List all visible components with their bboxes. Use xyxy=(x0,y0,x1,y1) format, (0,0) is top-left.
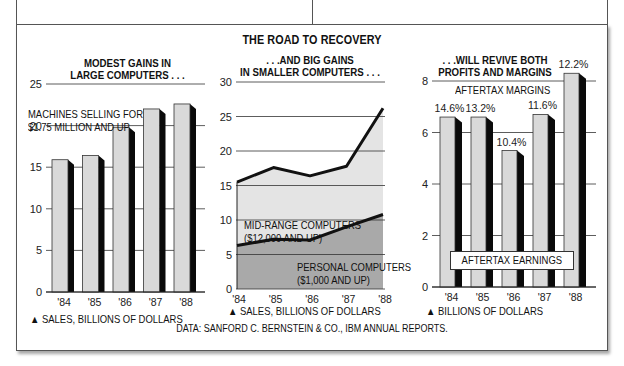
left-series-label-line2: $1.75 MILLION AND UP xyxy=(28,121,143,134)
svg-text:2: 2 xyxy=(422,230,428,242)
svg-text:0: 0 xyxy=(422,281,428,293)
svg-text:'88: '88 xyxy=(378,293,392,305)
bar-shadow xyxy=(99,156,105,292)
bar-shadow xyxy=(160,109,166,292)
source-note: DATA: SANFORD C. BERNSTEIN & CO., IBM AN… xyxy=(31,323,593,334)
svg-text:'87: '87 xyxy=(538,291,552,303)
svg-text:30: 30 xyxy=(220,76,232,88)
svg-text:0: 0 xyxy=(36,286,42,298)
svg-text:6: 6 xyxy=(422,127,428,139)
svg-text:25: 25 xyxy=(220,111,232,123)
svg-text:25: 25 xyxy=(30,78,42,90)
midrange-label-line2: ($12,000 AND UP) xyxy=(244,232,361,245)
middle-axis-note: ▲ SALES, BILLIONS OF DOLLARS xyxy=(228,305,381,317)
svg-text:0: 0 xyxy=(226,283,232,295)
midrange-label-line1: MID-RANGE COMPUTERS xyxy=(244,219,361,232)
svg-text:'86: '86 xyxy=(305,293,319,305)
midrange-label: MID-RANGE COMPUTERS ($12,000 AND UP) xyxy=(244,219,361,245)
bar-shadow xyxy=(68,160,74,292)
bar xyxy=(174,104,190,292)
svg-text:'86: '86 xyxy=(507,291,521,303)
bar xyxy=(113,127,129,292)
bar-shadow xyxy=(190,104,196,292)
svg-text:'84: '84 xyxy=(57,296,71,308)
svg-text:10: 10 xyxy=(30,203,42,215)
svg-text:4: 4 xyxy=(422,178,428,190)
svg-text:10: 10 xyxy=(220,214,232,226)
svg-text:'85: '85 xyxy=(88,296,102,308)
svg-text:'85: '85 xyxy=(476,291,490,303)
svg-text:5: 5 xyxy=(226,249,232,261)
svg-text:5: 5 xyxy=(36,244,42,256)
personal-label: PERSONAL COMPUTERS ($1,000 AND UP) xyxy=(297,261,411,287)
bar-shadow xyxy=(579,73,586,287)
bar-shadow xyxy=(129,127,135,292)
left-series-label: MACHINES SELLING FOR $1.75 MILLION AND U… xyxy=(28,108,143,134)
svg-text:15: 15 xyxy=(30,161,42,173)
margins-label: AFTERTAX MARGINS xyxy=(455,84,550,96)
earnings-label-box: AFTERTAX EARNINGS xyxy=(450,251,574,270)
svg-text:11.6%: 11.6% xyxy=(528,99,557,111)
svg-text:13.2%: 13.2% xyxy=(466,102,496,114)
svg-text:'85: '85 xyxy=(269,293,283,305)
bar xyxy=(83,156,99,292)
personal-label-line2: ($1,000 AND UP) xyxy=(297,274,411,287)
svg-text:'84: '84 xyxy=(232,293,246,305)
earnings-label: AFTERTAX EARNINGS xyxy=(462,252,562,269)
svg-text:'87: '87 xyxy=(342,293,356,305)
svg-text:'86: '86 xyxy=(118,296,132,308)
svg-text:8: 8 xyxy=(422,75,428,87)
left-series-label-line1: MACHINES SELLING FOR xyxy=(28,108,143,121)
svg-text:15: 15 xyxy=(220,180,232,192)
bar xyxy=(144,109,160,292)
svg-text:20: 20 xyxy=(220,145,232,157)
svg-text:10.4%: 10.4% xyxy=(497,136,527,148)
svg-text:14.6%: 14.6% xyxy=(435,102,465,114)
svg-text:'88: '88 xyxy=(569,291,583,303)
bar xyxy=(52,160,68,292)
right-axis-note: ▲ BILLIONS OF DOLLARS xyxy=(426,305,543,317)
svg-text:12.2%: 12.2% xyxy=(559,58,589,70)
svg-text:'84: '84 xyxy=(445,291,459,303)
svg-text:'88: '88 xyxy=(179,296,193,308)
personal-label-line1: PERSONAL COMPUTERS xyxy=(297,261,411,274)
svg-text:'87: '87 xyxy=(149,296,163,308)
